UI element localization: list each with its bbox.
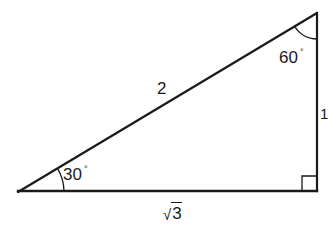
degree-symbol: °: [84, 164, 88, 174]
angle-label-60: 60°: [279, 49, 304, 66]
angle-30-value: 30: [63, 165, 82, 184]
hypotenuse-label: 2: [157, 80, 166, 97]
right-angle-marker: [302, 176, 317, 191]
angle-label-30: 30°: [63, 166, 88, 183]
square-root-icon: √: [163, 206, 171, 223]
degree-symbol: °: [300, 47, 304, 57]
radicand: 3: [171, 202, 181, 223]
angle-60-value: 60: [279, 48, 298, 67]
horizontal-leg-label: √3: [163, 205, 182, 222]
vertical-leg-label: 1: [320, 106, 328, 121]
angle-arc-60: [295, 26, 317, 39]
